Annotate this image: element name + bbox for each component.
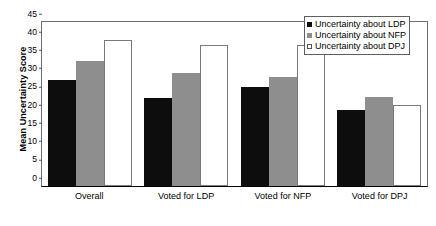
y-tick-label: 40 bbox=[28, 27, 42, 36]
y-axis-title: Mean Uncertainty Score bbox=[18, 24, 28, 174]
x-axis-labels: OverallVoted for LDPVoted for NFPVoted f… bbox=[41, 191, 428, 201]
legend-item: Uncertainty about DPJ bbox=[307, 41, 406, 52]
bar bbox=[393, 105, 421, 186]
legend-item: Uncertainty about NFP bbox=[307, 30, 406, 41]
bar bbox=[337, 110, 365, 186]
y-tick-label: 15 bbox=[28, 119, 42, 128]
legend-swatch-icon bbox=[307, 33, 312, 38]
bar-group bbox=[138, 22, 234, 186]
bar bbox=[144, 98, 172, 186]
bar bbox=[297, 45, 325, 186]
y-tick-label: 45 bbox=[28, 9, 42, 18]
y-tick-label: 20 bbox=[28, 100, 42, 109]
y-tick-label: 25 bbox=[28, 82, 42, 91]
legend-item: Uncertainty about LDP bbox=[307, 19, 406, 30]
bar bbox=[365, 97, 393, 186]
legend: Uncertainty about LDPUncertainty about N… bbox=[304, 16, 410, 55]
legend-label: Uncertainty about DPJ bbox=[315, 41, 405, 52]
bar bbox=[172, 73, 200, 186]
legend-label: Uncertainty about NFP bbox=[315, 30, 406, 41]
legend-label: Uncertainty about LDP bbox=[315, 19, 406, 30]
bar bbox=[200, 45, 228, 186]
bar bbox=[76, 61, 104, 186]
x-axis-label: Voted for DPJ bbox=[331, 191, 428, 201]
y-tick-label: 30 bbox=[28, 64, 42, 73]
y-tick-label: 35 bbox=[28, 46, 42, 55]
bar bbox=[241, 87, 269, 186]
legend-swatch-icon bbox=[307, 44, 312, 49]
bar bbox=[104, 40, 132, 186]
x-axis-label: Voted for LDP bbox=[138, 191, 235, 201]
x-axis-label: Overall bbox=[41, 191, 138, 201]
bar bbox=[269, 77, 297, 186]
bar-group bbox=[42, 22, 138, 186]
y-tick-label: 0 bbox=[32, 173, 42, 182]
y-tick-label: 5 bbox=[32, 155, 42, 164]
bar bbox=[48, 80, 76, 186]
legend-swatch-icon bbox=[307, 22, 312, 27]
x-axis-label: Voted for NFP bbox=[235, 191, 332, 201]
bar-chart: Mean Uncertainty Score 05101520253035404… bbox=[0, 0, 436, 226]
y-tick-label: 10 bbox=[28, 137, 42, 146]
